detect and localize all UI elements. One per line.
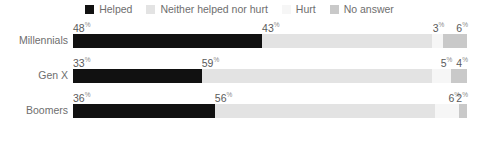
square-swatch-icon bbox=[85, 5, 94, 14]
percent-sign: % bbox=[462, 56, 468, 63]
bar-segment-value: 2% bbox=[456, 89, 468, 104]
legend-item[interactable]: Hurt bbox=[282, 4, 316, 15]
bar-segment[interactable]: 33% bbox=[73, 69, 202, 83]
stacked-bar: 48%43%3%6% bbox=[73, 34, 467, 48]
bar-segment[interactable]: 59% bbox=[202, 69, 432, 83]
bar-segment-value: 6% bbox=[456, 19, 468, 34]
category-label: Gen X bbox=[0, 69, 68, 81]
bar-segment[interactable]: 4% bbox=[451, 69, 467, 83]
legend-item[interactable]: Neither helped nor hurt bbox=[146, 4, 267, 15]
bar-segment-number: 43 bbox=[262, 21, 274, 33]
percent-sign: % bbox=[274, 21, 280, 28]
square-swatch-icon bbox=[146, 5, 155, 14]
category-label: Millennials bbox=[0, 34, 68, 46]
stacked-bar: 36%56%6%2% bbox=[73, 104, 467, 118]
legend-item[interactable]: Helped bbox=[85, 4, 132, 15]
bar-segment-value: 43% bbox=[262, 19, 279, 34]
category-label: Boomers bbox=[0, 104, 68, 116]
percent-sign: % bbox=[85, 21, 91, 28]
bar-segment-value: 5% bbox=[441, 54, 453, 69]
bar-segment-number: 33 bbox=[73, 56, 85, 68]
legend-item-label: Neither helped nor hurt bbox=[160, 4, 267, 15]
chart-row: Gen X33%59%5%4% bbox=[0, 53, 479, 88]
legend-item-label: Hurt bbox=[296, 4, 316, 15]
percent-sign: % bbox=[85, 56, 91, 63]
bar-segment[interactable]: 3% bbox=[432, 34, 444, 48]
legend-item-label: Helped bbox=[99, 4, 132, 15]
bar-segment[interactable]: 36% bbox=[73, 104, 215, 118]
chart-legend: HelpedNeither helped nor hurtHurtNo answ… bbox=[0, 0, 479, 18]
bar-segment[interactable]: 5% bbox=[432, 69, 452, 83]
percent-sign: % bbox=[462, 91, 468, 98]
bar-segment[interactable]: 6% bbox=[435, 104, 459, 118]
percent-sign: % bbox=[85, 91, 91, 98]
percent-sign: % bbox=[439, 21, 445, 28]
legend-item[interactable]: No answer bbox=[330, 4, 394, 15]
stacked-bar: 33%59%5%4% bbox=[73, 69, 467, 83]
bar-segment-value: 56% bbox=[215, 89, 232, 104]
bar-segment-value: 48% bbox=[73, 19, 90, 34]
bar-segment[interactable]: 43% bbox=[262, 34, 431, 48]
percent-sign: % bbox=[227, 91, 233, 98]
bar-segment-value: 4% bbox=[456, 54, 468, 69]
square-swatch-icon bbox=[330, 5, 339, 14]
square-swatch-icon bbox=[282, 5, 291, 14]
legend-item-label: No answer bbox=[344, 4, 394, 15]
percent-sign: % bbox=[462, 21, 468, 28]
bar-segment[interactable]: 48% bbox=[73, 34, 262, 48]
bar-segment-value: 36% bbox=[73, 89, 90, 104]
bar-segment[interactable]: 6% bbox=[443, 34, 467, 48]
bar-segment-number: 56 bbox=[215, 91, 227, 103]
bar-segment[interactable]: 2% bbox=[459, 104, 467, 118]
chart-row: Millennials48%43%3%6% bbox=[0, 18, 479, 53]
bar-segment-number: 48 bbox=[73, 21, 85, 33]
percent-sign: % bbox=[447, 56, 453, 63]
bar-segment-value: 59% bbox=[202, 54, 219, 69]
bar-segment-number: 59 bbox=[202, 56, 214, 68]
bar-segment-value: 33% bbox=[73, 54, 90, 69]
percent-sign: % bbox=[213, 56, 219, 63]
chart-row: Boomers36%56%6%2% bbox=[0, 88, 479, 123]
bar-segment-number: 36 bbox=[73, 91, 85, 103]
bar-segment-value: 3% bbox=[433, 19, 445, 34]
chart-plot-area: Millennials48%43%3%6%Gen X33%59%5%4%Boom… bbox=[0, 18, 479, 141]
bar-segment[interactable]: 56% bbox=[215, 104, 436, 118]
